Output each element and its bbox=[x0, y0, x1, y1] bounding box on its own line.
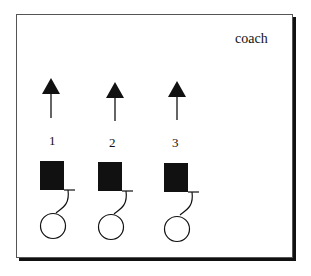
arrow-icon bbox=[106, 82, 124, 121]
player-number: 2 bbox=[109, 135, 116, 151]
player-number: 1 bbox=[49, 133, 56, 149]
player-number: 3 bbox=[172, 135, 179, 151]
player-symbol bbox=[98, 162, 133, 240]
player-symbol bbox=[164, 163, 199, 242]
arrow-icon bbox=[42, 78, 60, 118]
arrow-icon bbox=[168, 81, 186, 120]
player-symbol bbox=[40, 161, 75, 239]
formation-diagram bbox=[0, 0, 311, 276]
